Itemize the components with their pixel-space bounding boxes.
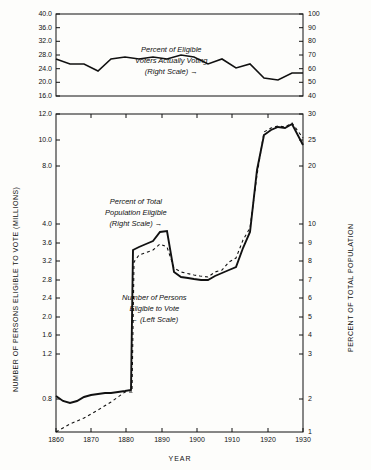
xtick-1930: 1930 bbox=[290, 436, 316, 443]
chart-figure: 40.0 36.0 32.0 28.0 24.0 20.0 16.0 100 9… bbox=[0, 0, 371, 470]
upper-ytick-right-6: 40 bbox=[308, 92, 316, 99]
lower-ytick-left-9: 1.6 bbox=[22, 331, 52, 338]
lower-ytick-left-5: 3.2 bbox=[22, 257, 52, 264]
lower-ytick-left-1: 10.0 bbox=[22, 136, 52, 143]
lower-ytick-left-2: 8.0 bbox=[22, 162, 52, 169]
lower-ytick-left-6: 2.8 bbox=[22, 276, 52, 283]
upper-ytick-right-0: 100 bbox=[308, 10, 320, 17]
lower-ytick-right-1: 25 bbox=[308, 136, 316, 143]
upper-ytick-right-4: 60 bbox=[308, 65, 316, 72]
upper-ytick-left-6: 16.0 bbox=[22, 92, 52, 99]
upper-ytick-right-5: 50 bbox=[308, 78, 316, 85]
x-axis-title: YEAR bbox=[150, 455, 210, 462]
upper-ytick-right-3: 70 bbox=[308, 51, 316, 58]
xtick-1890: 1890 bbox=[149, 436, 175, 443]
lower-ytick-left-10: 1.2 bbox=[22, 350, 52, 357]
xtick-1920: 1920 bbox=[255, 436, 281, 443]
annotation-mid-arrow-icon: → bbox=[155, 219, 163, 228]
upper-ytick-left-1: 36.0 bbox=[22, 24, 52, 31]
lower-ytick-right-0: 30 bbox=[308, 110, 316, 117]
upper-ytick-left-5: 20.0 bbox=[22, 78, 52, 85]
annotation-upper-line1: Percent of Eligible bbox=[141, 45, 201, 54]
lower-ytick-left-7: 2.4 bbox=[22, 294, 52, 301]
lower-ytick-left-0: 12.0 bbox=[22, 110, 52, 117]
lower-ytick-right-10: 3 bbox=[308, 350, 312, 357]
y-axis-title-right: PERCENT OF TOTAL POPULATION bbox=[347, 223, 354, 352]
annotation-upper-arrow-icon: → bbox=[190, 67, 198, 76]
lower-ytick-left-3: 4.0 bbox=[22, 220, 52, 227]
lower-ytick-right-6: 7 bbox=[308, 276, 312, 283]
lower-ytick-right-3: 10 bbox=[308, 220, 316, 227]
upper-ytick-left-3: 28.0 bbox=[22, 51, 52, 58]
lower-ytick-right-7: 6 bbox=[308, 294, 312, 301]
xtick-1900: 1900 bbox=[184, 436, 210, 443]
y-axis-title-left: NUMBER OF PERSONS ELIGIBLE TO VOTE (MILL… bbox=[12, 187, 19, 392]
annotation-mid-line3: (Right Scale) bbox=[109, 219, 152, 228]
upper-ytick-right-1: 90 bbox=[308, 24, 316, 31]
annotation-low-line2: Eligible to Vote bbox=[129, 304, 179, 313]
lower-ytick-right-12: 1 bbox=[308, 428, 312, 435]
annotation-mid: Percent of Total Population Eligible (Ri… bbox=[105, 196, 167, 229]
lower-ytick-right-4: 9 bbox=[308, 239, 312, 246]
upper-ytick-left-4: 24.0 bbox=[22, 65, 52, 72]
lower-ytick-left-4: 3.6 bbox=[22, 239, 52, 246]
lower-ytick-right-2: 20 bbox=[308, 162, 316, 169]
annotation-mid-line2: Population Eligible bbox=[105, 208, 167, 217]
xtick-1880: 1880 bbox=[113, 436, 139, 443]
upper-ytick-left-2: 32.0 bbox=[22, 37, 52, 44]
lower-ytick-right-8: 5 bbox=[308, 313, 312, 320]
xtick-1860: 1860 bbox=[43, 436, 69, 443]
upper-ytick-right-2: 80 bbox=[308, 37, 316, 44]
annotation-mid-line1: Percent of Total bbox=[110, 197, 162, 206]
annotation-upper: Percent of Eligible Voters Actually Voti… bbox=[135, 44, 208, 77]
annotation-upper-line2: Voters Actually Voting bbox=[135, 56, 208, 65]
lower-ytick-right-5: 8 bbox=[308, 257, 312, 264]
lower-ytick-right-9: 4 bbox=[308, 331, 312, 338]
upper-ytick-left-0: 40.0 bbox=[22, 10, 52, 17]
lower-ytick-left-11: 0.8 bbox=[22, 395, 52, 402]
xtick-1910: 1910 bbox=[219, 436, 245, 443]
annotation-low-line3: ← (Left Scale) bbox=[130, 315, 178, 324]
annotation-low-line1: Number of Persons bbox=[122, 293, 187, 302]
annotation-low: Number of Persons Eligible to Vote ← (Le… bbox=[122, 292, 187, 325]
annotation-upper-line3: (Right Scale) bbox=[145, 67, 188, 76]
lower-ytick-left-8: 2.0 bbox=[22, 313, 52, 320]
lower-ytick-right-11: 2 bbox=[308, 395, 312, 402]
xtick-1870: 1870 bbox=[78, 436, 104, 443]
